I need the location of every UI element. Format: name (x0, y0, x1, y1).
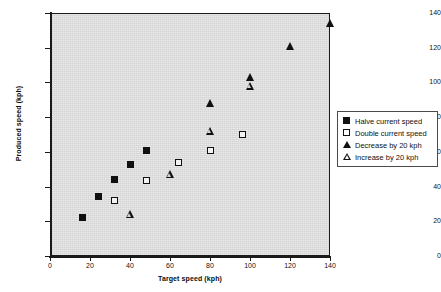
x-tick-label: 20 (75, 262, 105, 270)
filled-triangle-icon (342, 139, 353, 151)
y-axis-title: Produced speed (kph) (15, 54, 22, 194)
x-tick-label: 120 (275, 262, 305, 270)
data-point (95, 193, 102, 200)
y-tick (45, 82, 51, 83)
y-tick (45, 117, 51, 118)
x-tick-label: 80 (195, 262, 225, 270)
x-tick (130, 256, 131, 261)
data-point (111, 197, 118, 204)
data-point (79, 214, 86, 221)
open-triangle-icon (342, 151, 353, 163)
filled-square-icon (342, 115, 353, 127)
x-tick-label: 60 (155, 262, 185, 270)
data-point (143, 177, 150, 184)
y-tick-label: 20 (401, 217, 441, 225)
data-point (206, 127, 214, 135)
x-tick-label: 100 (235, 262, 265, 270)
x-tick (250, 256, 251, 261)
data-point (246, 82, 254, 90)
y-tick-label: 40 (401, 183, 441, 191)
y-tick (45, 13, 51, 14)
x-tick (50, 256, 51, 261)
x-tick-label: 0 (35, 262, 65, 270)
data-point (207, 147, 214, 154)
data-point (286, 42, 294, 50)
scatter-chart: 020406080100120140 020406080100120140 Ta… (0, 0, 441, 292)
x-tick (330, 256, 331, 261)
x-tick (90, 256, 91, 261)
y-tick-label: 120 (401, 44, 441, 52)
data-point (127, 161, 134, 168)
legend-item-label: Double current speed (353, 129, 427, 138)
data-point (206, 99, 214, 107)
legend-item-label: Decrease by 20 kph (353, 141, 422, 150)
x-tick-label: 140 (315, 262, 345, 270)
data-point (126, 210, 134, 218)
x-tick (290, 256, 291, 261)
y-tick (45, 187, 51, 188)
data-point (143, 147, 150, 154)
y-tick-label: 0 (401, 252, 441, 260)
legend-item[interactable]: Decrease by 20 kph (342, 139, 434, 151)
legend-item[interactable]: Halve current speed (342, 115, 434, 127)
chart-legend: Halve current speedDouble current speedD… (337, 111, 438, 167)
y-tick (45, 152, 51, 153)
x-tick-label: 40 (115, 262, 145, 270)
x-axis-line (49, 256, 331, 258)
data-point (111, 176, 118, 183)
data-point (326, 19, 334, 27)
y-tick-label: 140 (401, 9, 441, 17)
legend-item[interactable]: Double current speed (342, 127, 434, 139)
data-point (175, 159, 182, 166)
x-axis-title: Target speed (kph) (50, 275, 330, 282)
y-tick (45, 221, 51, 222)
data-point (239, 131, 246, 138)
legend-item[interactable]: Increase by 20 kph (342, 151, 434, 163)
x-tick (170, 256, 171, 261)
y-tick-label: 100 (401, 78, 441, 86)
legend-item-label: Halve current speed (353, 117, 422, 126)
legend-item-label: Increase by 20 kph (353, 153, 418, 162)
y-tick (45, 48, 51, 49)
x-tick (210, 256, 211, 261)
data-point (246, 73, 254, 81)
open-square-icon (342, 127, 353, 139)
data-point (166, 170, 174, 178)
